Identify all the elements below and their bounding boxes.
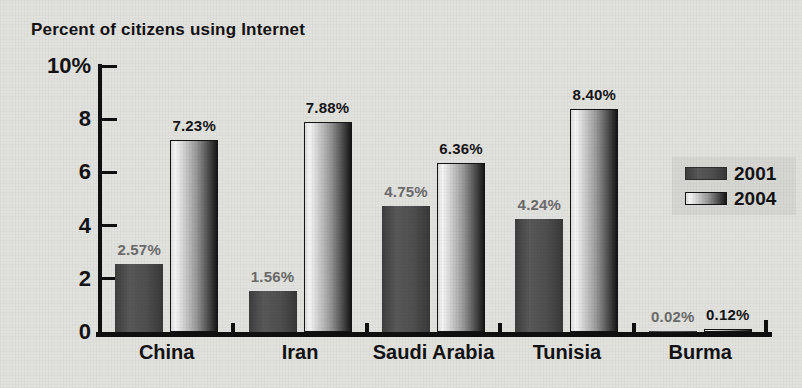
bar-chart: 10%864202.57%7.23%China1.56%7.88%Iran4.7… xyxy=(0,0,802,388)
x-axis-label-saudi-arabia: Saudi Arabia xyxy=(364,341,504,363)
x-axis-tick xyxy=(231,323,235,332)
x-axis-label-burma: Burma xyxy=(630,341,770,363)
x-axis-baseline xyxy=(96,332,772,337)
bar-2001-iran xyxy=(249,291,297,332)
legend-label-2004: 2004 xyxy=(734,189,776,208)
y-axis-tick xyxy=(101,171,117,174)
bar-2001-tunisia xyxy=(515,219,563,332)
x-axis-label-iran: Iran xyxy=(230,341,370,363)
value-label-2004: 6.36% xyxy=(417,141,505,157)
y-axis-line xyxy=(98,64,102,332)
bar-2001-saudi-arabia xyxy=(382,206,430,332)
y-tick-label: 0 xyxy=(0,320,91,344)
x-axis-tick xyxy=(498,323,502,332)
x-axis-tick xyxy=(365,323,369,332)
legend-swatch-2004 xyxy=(685,192,727,205)
y-tick-label: 4 xyxy=(0,214,91,238)
scanned-bar-chart-page: Percent of citizens using Internet 10%86… xyxy=(0,0,802,388)
value-label-2004: 0.12% xyxy=(684,307,772,323)
x-axis-label-tunisia: Tunisia xyxy=(497,341,637,363)
bar-2004-saudi-arabia xyxy=(437,163,485,332)
y-tick-label: 2 xyxy=(0,267,91,291)
value-label-2004: 8.40% xyxy=(550,87,638,103)
legend: 20012004 xyxy=(672,157,796,215)
x-axis-end-tick xyxy=(764,320,768,332)
bar-2004-tunisia xyxy=(570,109,618,332)
legend-row-2001: 2001 xyxy=(685,164,796,183)
y-tick-label: 8 xyxy=(0,107,91,131)
bar-2001-china xyxy=(115,264,163,332)
x-axis-label-china: China xyxy=(97,341,237,363)
bar-2004-iran xyxy=(304,122,352,332)
y-axis-tick xyxy=(101,65,117,68)
value-label-2004: 7.88% xyxy=(284,100,372,116)
legend-row-2004: 2004 xyxy=(685,189,796,208)
y-tick-label: 6 xyxy=(0,160,91,184)
bar-2004-china xyxy=(170,140,218,332)
y-axis-tick xyxy=(101,224,117,227)
value-label-2004: 7.23% xyxy=(150,118,238,134)
legend-swatch-2001 xyxy=(685,167,727,180)
y-tick-label: 10% xyxy=(0,54,91,78)
y-axis-tick xyxy=(101,118,117,121)
x-axis-tick xyxy=(632,323,636,332)
legend-label-2001: 2001 xyxy=(734,164,776,183)
